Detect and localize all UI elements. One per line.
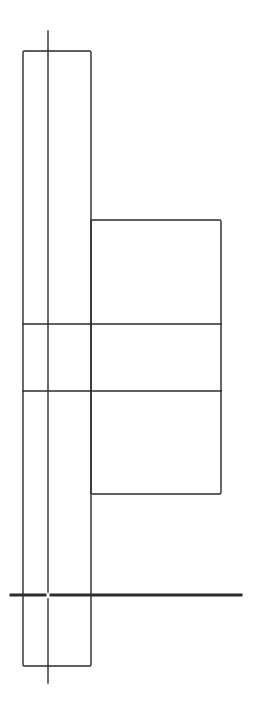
- technical-drawing: [0, 0, 253, 708]
- background: [0, 0, 253, 708]
